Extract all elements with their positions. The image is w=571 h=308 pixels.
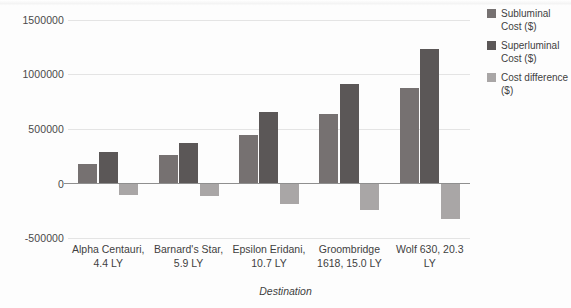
bar[interactable] xyxy=(340,84,359,184)
bar[interactable] xyxy=(78,164,97,184)
bar[interactable] xyxy=(360,184,379,211)
bar[interactable] xyxy=(259,112,278,183)
bar[interactable] xyxy=(400,88,419,184)
chart-canvas: 1500000 1000000 500000 0 -500000 Alpha C… xyxy=(0,0,571,308)
bar[interactable] xyxy=(179,143,198,183)
bar[interactable] xyxy=(441,184,460,220)
gridline--500000 xyxy=(68,238,470,239)
bar-group xyxy=(68,20,148,238)
bar[interactable] xyxy=(239,135,258,184)
scan-artifact xyxy=(0,0,571,6)
x-tick-label: Groombridge 1618, 15.0 LY xyxy=(309,243,389,270)
legend-label: Cost difference ($) xyxy=(501,72,571,97)
bar-group xyxy=(390,20,470,238)
bar[interactable] xyxy=(420,49,439,183)
legend-item[interactable]: Subluminal Cost ($) xyxy=(487,8,571,33)
legend-item[interactable]: Superluminal Cost ($) xyxy=(487,40,571,65)
x-tick-label: Barnard's Star, 5.9 LY xyxy=(148,243,228,270)
legend-swatch-icon xyxy=(487,9,496,18)
bar-group xyxy=(229,20,309,238)
bar[interactable] xyxy=(280,184,299,204)
y-tick-label: 1500000 xyxy=(4,14,64,26)
y-tick-label: -500000 xyxy=(0,232,64,244)
legend-label: Superluminal Cost ($) xyxy=(501,40,571,65)
x-tick-label: Epsilon Eridani, 10.7 LY xyxy=(229,243,309,270)
legend-swatch-icon xyxy=(487,73,496,82)
legend-label: Subluminal Cost ($) xyxy=(501,8,571,33)
bar[interactable] xyxy=(200,184,219,197)
chart-legend: Subluminal Cost ($) Superluminal Cost ($… xyxy=(487,8,571,104)
bar-group xyxy=(309,20,389,238)
y-tick-label: 1000000 xyxy=(4,68,64,80)
bar-groups xyxy=(68,20,470,238)
y-tick-label: 0 xyxy=(4,178,64,190)
legend-item[interactable]: Cost difference ($) xyxy=(487,72,571,97)
x-axis-title: Destination xyxy=(0,285,571,297)
y-tick-label: 500000 xyxy=(4,123,64,135)
bar[interactable] xyxy=(159,155,178,183)
bar[interactable] xyxy=(99,152,118,183)
plot-area xyxy=(68,20,470,238)
bar[interactable] xyxy=(319,114,338,184)
x-tick-label: Wolf 630, 20.3 LY xyxy=(390,243,470,270)
legend-swatch-icon xyxy=(487,41,496,50)
x-tick-label: Alpha Centauri, 4.4 LY xyxy=(68,243,148,270)
bar-group xyxy=(148,20,228,238)
bar[interactable] xyxy=(119,184,138,195)
